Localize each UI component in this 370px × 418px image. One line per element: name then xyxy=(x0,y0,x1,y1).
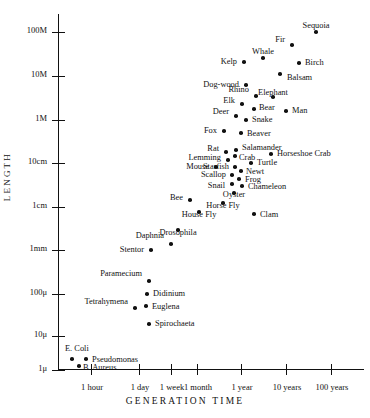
data-point xyxy=(147,279,151,283)
data-point xyxy=(261,56,265,60)
data-point xyxy=(239,131,243,135)
y-axis-tick-label: 1M xyxy=(35,114,47,123)
data-point-label: Euglena xyxy=(152,303,179,311)
data-point-label: Drosophila xyxy=(159,229,196,237)
data-point xyxy=(222,129,226,133)
data-point-label: Kelp xyxy=(221,58,237,66)
y-axis-tick: 1mm xyxy=(52,250,65,251)
data-point xyxy=(239,169,243,173)
x-axis-title: GENERATION TIME xyxy=(0,396,370,406)
x-axis-tick: 100 years xyxy=(331,364,332,375)
y-axis-tick-label: 100μ xyxy=(30,288,47,297)
data-point-label: Salamander xyxy=(242,144,282,152)
data-point xyxy=(233,154,237,158)
data-point xyxy=(237,177,241,181)
data-point xyxy=(269,152,273,156)
data-point xyxy=(145,292,149,296)
data-point xyxy=(70,357,74,361)
x-axis-tick-label: 1 week xyxy=(160,383,184,392)
data-point-label: Spirochaeta xyxy=(155,320,195,328)
data-point xyxy=(252,107,256,111)
x-axis-tick: 1 day xyxy=(139,364,140,375)
data-point xyxy=(297,61,301,65)
y-axis-tick: 100μ xyxy=(52,294,65,295)
y-axis-tick: 10μ xyxy=(52,336,65,337)
y-axis-tick: 100M xyxy=(52,32,65,33)
data-point-label: Fox xyxy=(204,127,217,135)
data-point xyxy=(244,118,248,122)
y-axis-tick-label: 10μ xyxy=(34,330,47,339)
x-axis-tick: 1 year xyxy=(241,364,242,375)
x-axis-tick: 1 month xyxy=(197,364,198,375)
data-point xyxy=(84,357,88,361)
y-axis-title: LENGTH xyxy=(2,152,12,201)
data-point xyxy=(169,242,173,246)
y-axis-tick: 1cm xyxy=(52,207,65,208)
data-point xyxy=(230,173,234,177)
data-point-label: Horseshoe Crab xyxy=(277,150,331,158)
data-point xyxy=(234,148,238,152)
data-point-label: Balsam xyxy=(287,74,312,82)
data-point-label: Oyster xyxy=(223,191,245,199)
data-point-label: Clam xyxy=(260,211,278,219)
x-axis-tick-label: 1 month xyxy=(184,383,212,392)
data-point-label: Beaver xyxy=(247,130,271,138)
data-point-label: Birch xyxy=(305,59,324,67)
y-axis-tick: 10M xyxy=(52,76,65,77)
data-point-label: E. Coli xyxy=(65,345,89,353)
data-point-label: Daphnia xyxy=(136,232,164,240)
y-axis-tick-label: 100M xyxy=(27,26,47,35)
data-point-label: Didinium xyxy=(153,290,185,298)
data-point xyxy=(314,30,318,34)
x-axis-tick-label: 1 year xyxy=(231,383,252,392)
data-point xyxy=(290,43,294,47)
x-axis-tick: 10 years xyxy=(286,364,287,375)
data-point xyxy=(147,322,151,326)
data-point-label: Stentor xyxy=(120,246,144,254)
data-point-label: Elephant xyxy=(258,89,288,97)
data-point xyxy=(188,198,192,202)
data-point xyxy=(249,161,253,165)
data-point-label: Elk xyxy=(223,97,235,105)
data-point xyxy=(254,94,258,98)
y-axis-tick-label: 1cm xyxy=(32,201,47,210)
y-axis-tick-label: 10cm xyxy=(28,157,47,166)
data-point-label: Paramecium xyxy=(100,270,142,278)
data-point xyxy=(230,182,234,186)
data-point-label: Crab xyxy=(239,154,255,162)
data-point-label: Man xyxy=(292,107,307,115)
data-point-label: Rhino xyxy=(229,86,249,94)
data-point xyxy=(284,109,288,113)
data-point-label: Scallop xyxy=(201,171,226,179)
x-axis-tick-label: 1 day xyxy=(131,383,150,392)
data-point xyxy=(133,306,137,310)
data-point-label: House Fly xyxy=(182,211,217,219)
y-axis-tick: 10cm xyxy=(52,163,65,164)
data-point-label: Bee xyxy=(170,194,183,202)
data-point xyxy=(278,72,282,76)
data-point xyxy=(252,212,256,216)
x-axis-tick: 1 week xyxy=(171,364,172,375)
data-point-label: Deer xyxy=(213,108,229,116)
data-point-label: Fir xyxy=(275,36,285,44)
y-axis-tick-label: 1mm xyxy=(30,244,47,253)
data-point xyxy=(234,114,238,118)
data-point xyxy=(149,248,153,252)
data-point-label: Tetrahymena xyxy=(84,298,128,306)
data-point xyxy=(144,304,148,308)
data-point xyxy=(224,150,228,154)
y-axis-tick: 1M xyxy=(52,120,65,121)
data-point xyxy=(77,364,81,368)
data-point-label: Snake xyxy=(252,116,272,124)
data-point-label: Sequoia xyxy=(303,22,330,30)
chart-figure: LENGTH 100M10M1M10cm1cm1mm100μ10μ1μ 1 ho… xyxy=(0,0,370,418)
x-axis-tick-label: 1 hour xyxy=(81,383,103,392)
y-axis-tick-label: 10M xyxy=(31,70,47,79)
plot-area: 100M10M1M10cm1cm1mm100μ10μ1μ 1 hour1 day… xyxy=(58,14,364,370)
y-axis-tick-label: 1μ xyxy=(38,364,47,373)
data-point xyxy=(242,60,246,64)
data-point-label: B. Aureus xyxy=(83,364,117,372)
data-point xyxy=(240,184,244,188)
data-point xyxy=(233,165,237,169)
data-point-label: Whale xyxy=(252,48,274,56)
